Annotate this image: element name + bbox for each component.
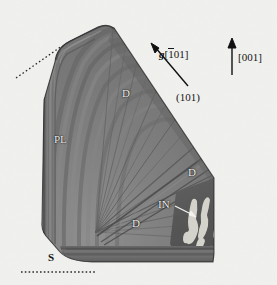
micrograph-image <box>0 0 277 285</box>
micrograph-figure: g[101] [001] (101) D PL D D IN S <box>0 0 277 285</box>
